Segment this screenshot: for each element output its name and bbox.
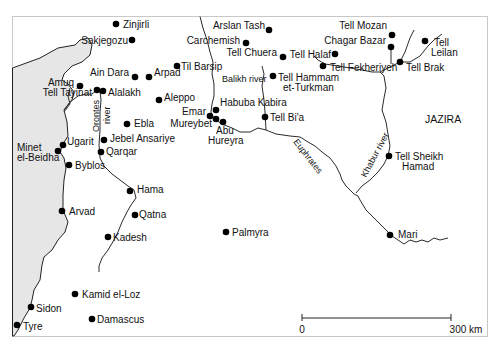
site-label-habuba-kabira: Habuba Kabira	[220, 97, 287, 108]
site-dot-tyre[interactable]	[14, 322, 21, 329]
site-label-tell-hammam-2: et-Turkman	[283, 82, 334, 93]
site-dot-arvad[interactable]	[59, 208, 66, 215]
site-label-emar: Emar	[182, 106, 207, 117]
site-label-chagar-bazar: Chagar Bazar	[324, 35, 386, 46]
site-label-carchemish: Carchemish	[187, 35, 240, 46]
site-dot-arslan-tash[interactable]	[266, 27, 273, 34]
site-dot-kamid-el-loz[interactable]	[72, 291, 79, 298]
site-label-kadesh: Kadesh	[113, 232, 147, 243]
map: Orontes river Balikh river Euphrates Kha…	[0, 0, 500, 352]
site-dot-tell-tayinat[interactable]	[94, 87, 101, 94]
site-dot-qatna[interactable]	[132, 212, 139, 219]
site-dot-byblos[interactable]	[66, 162, 73, 169]
site-label-qarqar: Qarqar	[106, 146, 138, 157]
site-dot-mari[interactable]	[387, 232, 394, 239]
site-label-tell-mozan: Tell Mozan	[339, 20, 387, 31]
site-label-ain-dara: Ain Dara	[90, 67, 129, 78]
site-dot-tell-chuera[interactable]	[280, 54, 287, 61]
site-label-byblos: Byblos	[75, 160, 105, 171]
site-dot-ugarit[interactable]	[60, 142, 67, 149]
site-label-tell-sheikh-hamad-2: Hamad	[402, 161, 434, 172]
site-dot-hama[interactable]	[127, 188, 134, 195]
site-dot-palmyra[interactable]	[223, 229, 230, 236]
site-label-jebel-ansariye: Jebel Ansariye	[110, 133, 175, 144]
site-label-tell-brak: Tell Brak	[406, 62, 445, 73]
site-dot-kadesh[interactable]	[105, 234, 112, 241]
site-label-sidon: Sidon	[36, 303, 62, 314]
site-label-tell-bia: Tell Bi'a	[270, 112, 305, 123]
site-dot-tell-sheikh-hamad[interactable]	[386, 153, 393, 160]
site-label-tell-chuera: Tell Chuera	[226, 47, 277, 58]
site-label-arpad: Arpad	[154, 67, 181, 78]
site-dot-jebel-ansariye[interactable]	[101, 137, 108, 144]
site-dot-tell-hammam[interactable]	[270, 73, 277, 80]
site-dot-tell-mozan[interactable]	[389, 32, 396, 39]
site-dot-zinjirli[interactable]	[113, 21, 120, 28]
site-dot-mureybet[interactable]	[213, 116, 220, 123]
site-dot-tell-halaf[interactable]	[332, 51, 339, 58]
site-label-qatna: Qatna	[139, 209, 167, 220]
site-label-tell-halaf: Tell Halaf	[290, 49, 331, 60]
site-label-damascus: Damascus	[97, 314, 144, 325]
site-label-arvad: Arvad	[69, 206, 95, 217]
site-dot-sidon[interactable]	[28, 304, 35, 311]
site-dot-tell-brak[interactable]	[397, 59, 404, 66]
site-dot-tell-fekheriyeh[interactable]	[320, 63, 327, 70]
site-dot-alalakh[interactable]	[100, 88, 107, 95]
site-label-palmyra: Palmyra	[232, 227, 269, 238]
site-label-hama: Hama	[137, 184, 164, 195]
site-dot-damascus[interactable]	[89, 316, 96, 323]
site-label-minet-el-beidha-2: el-Beidha	[17, 152, 60, 163]
site-label-alalakh: Alalakh	[108, 87, 141, 98]
site-label-tell-fekheriyeh: Tell Fekheriyeh	[330, 62, 397, 73]
site-dot-arpad[interactable]	[146, 74, 153, 81]
river-label-orontes: Orontes	[91, 99, 101, 132]
site-label-kamid-el-loz: Kamid el-Loz	[82, 289, 140, 300]
site-dot-habuba-kabira[interactable]	[213, 107, 220, 114]
site-dot-ain-dara[interactable]	[132, 74, 139, 81]
site-label-tell-tayinat: Tell Tayinat	[43, 87, 93, 98]
site-label-arslan-tash: Arslan Tash	[213, 20, 265, 31]
region-label-jazira: JAZIRA	[425, 113, 461, 125]
site-label-ebla: Ebla	[134, 118, 154, 129]
site-dot-qarqar[interactable]	[98, 149, 105, 156]
site-label-mureybet: Mureybet	[170, 118, 212, 129]
site-label-zinjirli: Zinjirli	[123, 19, 149, 30]
site-label-ugarit: Ugarit	[67, 136, 94, 147]
site-label-til-barsip: Til Barsip	[181, 61, 223, 72]
site-label-sakjegozu: Sakjegozu	[81, 35, 128, 46]
site-dot-aleppo[interactable]	[156, 97, 163, 104]
scale-label-start: 0	[299, 324, 305, 335]
site-dot-carchemish[interactable]	[243, 40, 250, 47]
river-label-orontes-river: river	[102, 106, 112, 124]
site-dot-sakjegozu[interactable]	[129, 37, 136, 44]
site-dot-tell-bia[interactable]	[262, 114, 269, 121]
site-dot-chagar-bazar[interactable]	[388, 44, 395, 51]
site-label-abu-hureyra-2: Hureyra	[208, 135, 244, 146]
site-dot-tell-leilan[interactable]	[422, 38, 429, 45]
scale-label-end: 300 km	[450, 324, 483, 335]
site-label-mari: Mari	[398, 229, 417, 240]
site-label-aleppo: Aleppo	[164, 92, 196, 103]
site-label-tell-leilan-2: Leilan	[431, 47, 458, 58]
site-dot-ebla[interactable]	[124, 121, 131, 128]
site-label-tyre: Tyre	[23, 321, 43, 332]
river-label-balikh: Balikh river	[222, 74, 267, 84]
